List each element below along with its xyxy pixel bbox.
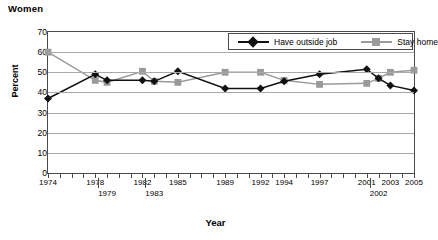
x-tick-label: 1994 [275,178,293,187]
y-tick-label: 20 [13,128,47,138]
x-tick-label: 1992 [252,178,270,187]
label-divider [145,178,146,188]
y-tick-label: 70 [13,27,47,37]
data-point-marker [221,84,229,92]
legend-item-have-outside-job: Have outside job [238,37,337,47]
gridline [48,92,414,93]
x-tick-label: 1982 [134,178,152,187]
y-tick-label: 10 [13,148,47,158]
x-tick-label: 1997 [311,178,329,187]
legend-label: Have outside job [274,37,337,47]
y-tick-label: 60 [13,47,47,57]
x-tick-label: 1989 [216,178,234,187]
y-tick-label: 0 [13,168,47,178]
x-tick-label: 2003 [381,178,399,187]
legend-swatch-have-outside-job [238,37,269,46]
x-tick-label: 2005 [405,178,423,187]
legend-item-stay-home: Stay home [361,37,438,47]
data-point-marker [363,80,370,87]
x-tick-label: 1979 [98,189,116,198]
data-point-marker [138,76,146,84]
gridline [48,113,414,114]
label-divider [98,178,99,188]
square-marker-icon [372,38,380,46]
series-line [48,52,414,84]
x-tick-label: 1985 [169,178,187,187]
x-tick-label: 1978 [86,178,104,187]
gridline [48,72,414,73]
gridline [48,133,414,134]
plot-area [47,31,415,174]
data-point-marker [139,68,146,75]
y-tick-label: 50 [13,67,47,77]
legend-label: Stay home [397,37,438,47]
label-divider [370,178,371,188]
data-point-marker [174,79,181,86]
legend-swatch-stay-home [361,37,392,46]
data-point-marker [316,81,323,88]
x-tick-label: 2002 [370,189,388,198]
gridline [48,52,414,53]
y-axis: 010203040506070 [0,31,47,174]
data-point-marker [257,84,265,92]
x-tick-label: 1983 [145,189,163,198]
x-tick-label: 2001 [358,178,376,187]
series-layer [48,32,414,173]
x-axis-label: Year [0,217,431,228]
diamond-marker-icon [247,36,258,47]
gridline [48,153,414,154]
page-title: Women [8,3,43,14]
data-point-marker [174,67,182,75]
data-point-marker [386,81,394,89]
chart-legend: Have outside job Stay home [228,33,413,50]
x-tick-label: 1974 [39,178,57,187]
y-tick-label: 30 [13,108,47,118]
y-tick-label: 40 [13,87,47,97]
x-axis-labels: 1974197819821985198919921994199720012003… [0,178,431,212]
